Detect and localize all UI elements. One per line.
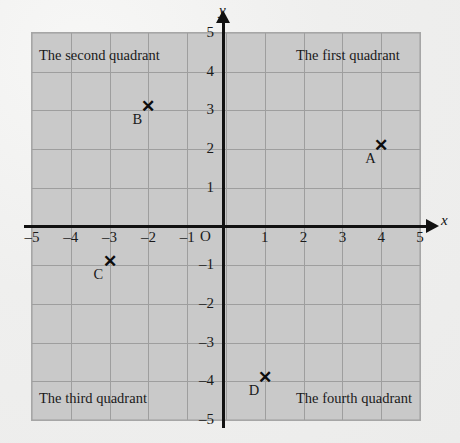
y-axis-tick-label: 1 xyxy=(190,179,214,196)
x-axis-tick-label: –2 xyxy=(136,229,160,246)
quadrant-label-third: The third quadrant xyxy=(39,390,147,407)
point-marker-x-icon: ✕ xyxy=(140,99,156,115)
origin-label: O xyxy=(200,228,211,245)
quadrant-label-fourth: The fourth quadrant xyxy=(296,390,412,407)
x-axis-tick-label: 2 xyxy=(292,229,316,246)
y-axis-line xyxy=(222,22,225,428)
gridline-horizontal xyxy=(32,304,420,305)
quadrant-label-second: The second quadrant xyxy=(39,47,160,64)
x-axis-tick-label: –1 xyxy=(175,229,199,246)
x-axis-tick-label: –4 xyxy=(59,229,83,246)
y-axis-tick-label: 4 xyxy=(190,63,214,80)
point-label-a: A xyxy=(365,150,375,167)
gridline-horizontal xyxy=(32,265,420,266)
quadrant-label-first: The first quadrant xyxy=(296,47,400,64)
point-marker-x-icon: ✕ xyxy=(102,254,118,270)
y-axis-tick-label: –1 xyxy=(190,256,214,273)
y-axis-tick-label: 2 xyxy=(190,140,214,157)
x-axis-tick-label: 1 xyxy=(253,229,277,246)
point-label-c: C xyxy=(94,266,104,283)
y-axis-label: y xyxy=(219,2,226,19)
point-label-b: B xyxy=(132,111,142,128)
gridline-horizontal xyxy=(32,381,420,382)
x-axis-tick-label: 5 xyxy=(408,229,432,246)
gridline-horizontal xyxy=(32,343,420,344)
y-axis-tick-label: 3 xyxy=(190,101,214,118)
y-axis-tick-label: –4 xyxy=(190,372,214,389)
x-axis-tick-label: 4 xyxy=(369,229,393,246)
x-axis-tick-label: –3 xyxy=(98,229,122,246)
y-axis-tick-label: –5 xyxy=(190,411,214,428)
y-axis-tick-label: –3 xyxy=(190,334,214,351)
x-axis-tick-label: 3 xyxy=(330,229,354,246)
x-axis-line xyxy=(24,225,428,228)
point-label-d: D xyxy=(249,382,259,399)
y-axis-tick-label: 5 xyxy=(190,24,214,41)
x-axis-tick-label: –5 xyxy=(20,229,44,246)
y-axis-tick-label: –2 xyxy=(190,295,214,312)
x-axis-label: x xyxy=(441,212,448,229)
